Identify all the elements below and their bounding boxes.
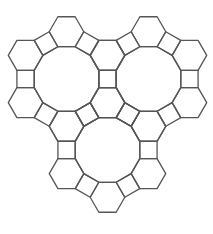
hexagon-tile (8, 40, 43, 70)
hexagon-tile (131, 17, 166, 47)
square-tile (116, 32, 140, 56)
square-tile (34, 32, 58, 56)
square-tile (116, 103, 140, 127)
square-tile (75, 103, 99, 127)
square-tile (58, 141, 75, 158)
hexagon-tile (49, 17, 84, 47)
tiling-figure (0, 0, 213, 234)
square-tile (34, 103, 58, 127)
square-tile (17, 70, 34, 87)
dodecagon-left (34, 47, 99, 112)
square-tile (116, 174, 140, 198)
tiling-diagram (0, 0, 213, 234)
square-tile (116, 103, 140, 127)
hexagon-tile (8, 88, 43, 118)
square-tile (75, 103, 99, 127)
square-tile (99, 70, 116, 87)
hexagon-tile (172, 88, 207, 118)
hexagon-tile (131, 159, 166, 189)
hexagon-tile (49, 159, 84, 189)
square-tile (140, 141, 157, 158)
hexagon-tile (90, 182, 125, 212)
dodecagon-bottom (75, 118, 140, 183)
square-tile (157, 32, 181, 56)
hexagon-tile (172, 40, 207, 70)
square-tile (75, 32, 99, 56)
square-tile (99, 70, 116, 87)
square-tile (181, 70, 198, 87)
dodecagon-right (116, 47, 181, 112)
square-tile (157, 103, 181, 127)
square-tile (75, 174, 99, 198)
